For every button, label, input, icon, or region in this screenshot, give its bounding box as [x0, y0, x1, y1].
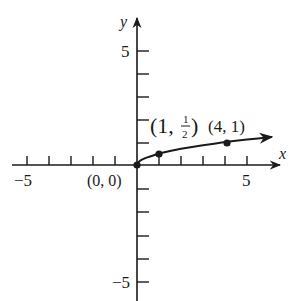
svg-text:1: 1	[183, 113, 189, 125]
svg-text:2: 2	[182, 128, 188, 140]
point-4-1	[223, 139, 230, 146]
point-1-half-label: (1, 1 2 )	[150, 113, 198, 140]
x-tick-label-neg5: −5	[14, 171, 32, 190]
x-tick-label-5: 5	[242, 171, 251, 190]
point-4-1-label: (4, 1)	[208, 117, 245, 136]
x-axis-label: x	[278, 145, 286, 162]
y-tick-label-5: 5	[121, 42, 130, 61]
graph: y x −5 5 5 −5 (0, 0) (1, 1 2 ) (4, 1)	[0, 0, 289, 301]
svg-text:): )	[191, 113, 198, 138]
origin-label: (0, 0)	[87, 172, 122, 190]
y-tick-label-neg5: −5	[112, 273, 130, 292]
point-1-half	[155, 150, 162, 157]
svg-text:(1,: (1,	[150, 113, 174, 138]
point-origin	[133, 161, 140, 168]
y-axis-label: y	[118, 13, 128, 31]
